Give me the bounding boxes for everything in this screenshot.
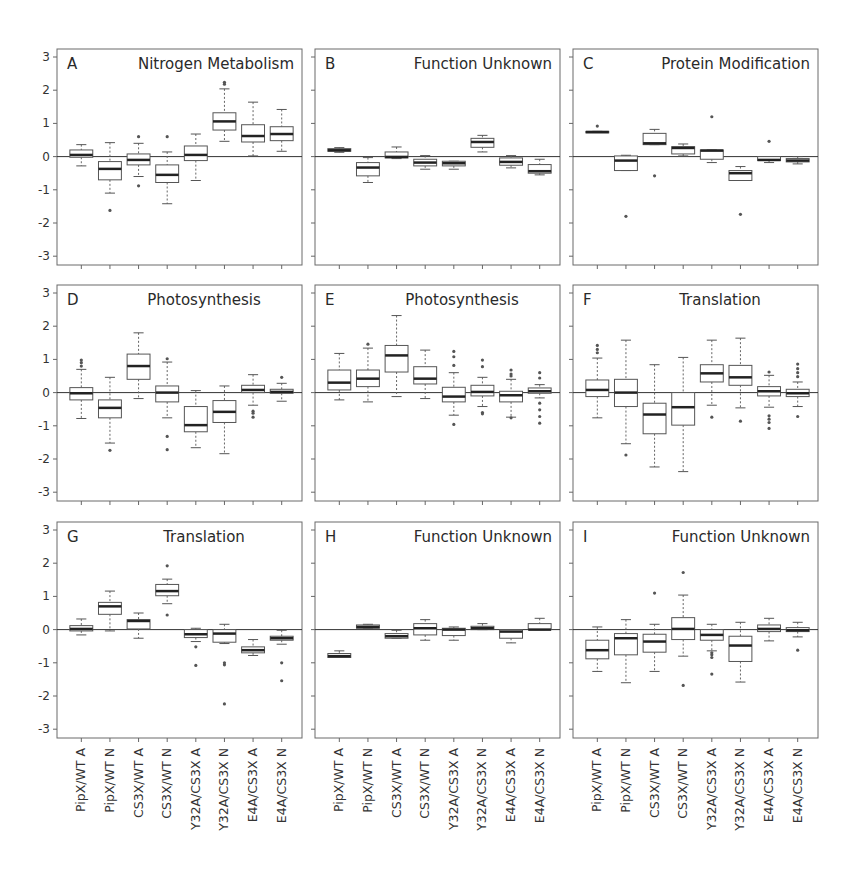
x-tick-label: Y32A/CS3X A xyxy=(446,748,461,831)
panel-title: Function Unknown xyxy=(414,528,552,546)
x-tick-label: E4A/CS3X N xyxy=(790,748,805,823)
box-6: Y32A/CS3X N xyxy=(729,622,752,832)
box-5 xyxy=(184,391,207,505)
box-1: PipX/WT A xyxy=(70,619,93,812)
box-8 xyxy=(786,157,809,269)
outlier-point xyxy=(767,418,770,421)
iqr-box xyxy=(98,162,121,180)
y-tick-label: -3 xyxy=(38,485,50,499)
y-tick-label: 0 xyxy=(42,386,50,400)
outlier-point xyxy=(452,355,455,358)
x-tick-label: CS3X/WT A xyxy=(131,748,146,818)
x-tick-label: Y32A/CS3X N xyxy=(732,748,747,832)
outlier-point xyxy=(538,402,541,405)
panel-letter: I xyxy=(583,528,587,546)
outlier-point xyxy=(223,81,226,84)
box-6 xyxy=(471,135,494,269)
iqr-box xyxy=(242,125,265,142)
outlier-point xyxy=(280,661,283,664)
outlier-point xyxy=(767,370,770,373)
box-3: CS3X/WT A xyxy=(643,591,666,817)
panel-letter: H xyxy=(325,528,336,546)
box-4: CS3X/WT N xyxy=(672,571,695,819)
outlier-point xyxy=(366,343,369,346)
box-1 xyxy=(586,124,609,269)
panel-c: CProtein Modification xyxy=(569,49,818,269)
outlier-point xyxy=(509,372,512,375)
box-2 xyxy=(98,377,121,505)
box-2 xyxy=(614,155,637,269)
outlier-point xyxy=(538,415,541,418)
outlier-point xyxy=(481,358,484,361)
outlier-point xyxy=(538,408,541,411)
outlier-point xyxy=(538,371,541,374)
y-tick-label: -2 xyxy=(38,689,50,703)
outlier-point xyxy=(796,375,799,378)
outlier-point xyxy=(80,358,83,361)
outlier-point xyxy=(251,416,254,419)
box-1 xyxy=(328,148,351,269)
box-3 xyxy=(385,147,408,269)
iqr-box xyxy=(442,387,465,402)
outlier-point xyxy=(538,422,541,425)
outlier-point xyxy=(767,421,770,424)
box-7 xyxy=(758,140,781,269)
y-tick-label: 2 xyxy=(42,319,50,333)
outlier-point xyxy=(166,435,169,438)
x-tick-label: PipX/WT A xyxy=(331,748,346,812)
box-2 xyxy=(98,143,121,269)
box-2: PipX/WT N xyxy=(356,624,379,812)
y-tick-label: -1 xyxy=(38,656,50,670)
panel-title: Function Unknown xyxy=(414,55,552,73)
iqr-box xyxy=(184,146,207,161)
box-7 xyxy=(500,156,523,269)
y-tick-label: -1 xyxy=(38,419,50,433)
box-8: E4A/CS3X N xyxy=(270,630,293,823)
outlier-point xyxy=(596,348,599,351)
outlier-point xyxy=(509,368,512,371)
outlier-point xyxy=(710,656,713,659)
y-tick-label: 2 xyxy=(42,556,50,570)
outlier-point xyxy=(194,664,197,667)
box-3: CS3X/WT A xyxy=(385,630,408,818)
iqr-box xyxy=(156,386,179,402)
box-3 xyxy=(127,333,150,505)
panel-title: Photosynthesis xyxy=(405,291,519,309)
box-6: Y32A/CS3X N xyxy=(213,624,236,832)
iqr-box xyxy=(471,385,494,396)
box-6 xyxy=(213,81,236,269)
outlier-point xyxy=(509,416,512,419)
outlier-point xyxy=(767,140,770,143)
outlier-point xyxy=(739,213,742,216)
y-tick-label: -1 xyxy=(38,183,50,197)
box-4: CS3X/WT N xyxy=(414,620,437,819)
outlier-point xyxy=(108,209,111,212)
panel-letter: F xyxy=(583,291,592,309)
outlier-point xyxy=(796,649,799,652)
box-7: E4A/CS3X A xyxy=(242,640,265,823)
outlier-point xyxy=(596,351,599,354)
box-3: CS3X/WT A xyxy=(127,613,150,818)
box-4 xyxy=(156,357,179,505)
box-6 xyxy=(729,338,752,505)
panel-title: Translation xyxy=(162,528,245,546)
box-8 xyxy=(270,109,293,269)
outlier-point xyxy=(796,415,799,418)
outlier-point xyxy=(452,423,455,426)
x-tick-label: PipX/WT A xyxy=(73,748,88,812)
iqr-box xyxy=(643,634,666,652)
x-tick-label: CS3X/WT A xyxy=(647,748,662,818)
outlier-point xyxy=(538,376,541,379)
panel-letter: B xyxy=(325,55,335,73)
boxplot-figure: 3210-1-2-3ANitrogen MetabolismBFunction … xyxy=(0,0,866,871)
box-2 xyxy=(356,343,379,505)
box-8: E4A/CS3X N xyxy=(528,618,551,823)
x-tick-label: CS3X/WT N xyxy=(159,748,174,819)
box-2: PipX/WT N xyxy=(614,620,637,813)
outlier-point xyxy=(682,571,685,574)
outlier-point xyxy=(137,184,140,187)
box-3 xyxy=(643,365,666,505)
x-tick-label: E4A/CS3X N xyxy=(274,748,289,823)
outlier-point xyxy=(796,371,799,374)
panel-letter: A xyxy=(67,55,78,73)
